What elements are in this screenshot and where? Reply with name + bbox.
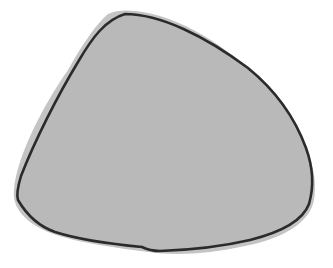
drawing-canvas — [0, 0, 333, 268]
